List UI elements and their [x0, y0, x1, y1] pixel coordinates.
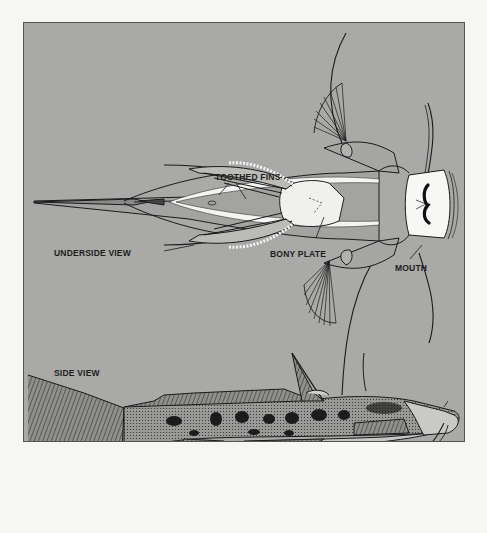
label-side-view: SIDE VIEW [54, 368, 100, 379]
label-toothed-fins: TOOTHED FINS [215, 172, 281, 183]
label-underside-view: UNDERSIDE VIEW [54, 248, 131, 259]
label-bony-plate: BONY PLATE [270, 249, 326, 260]
label-mouth: MOUTH [395, 263, 427, 274]
side-view-drawing [28, 353, 459, 442]
underside-view-drawing [34, 33, 458, 395]
catfish-illustration [24, 23, 465, 442]
illustration-panel: TOOTHED FINS UNDERSIDE VIEW BONY PLATE M… [23, 22, 465, 442]
